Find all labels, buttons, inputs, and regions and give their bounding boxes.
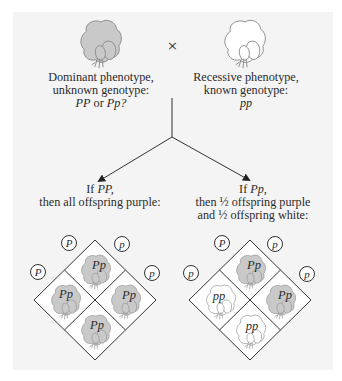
cell-genotype-left-right: Pp — [122, 288, 136, 303]
outcome-left-line-1: then all offspring purple: — [25, 196, 175, 209]
recessive-parent-label: Recessive phenotype, known genotype: pp — [175, 71, 317, 111]
dominant-parent-label: Dominant phenotype, unknown genotype: PP… — [30, 71, 172, 111]
gamete-circle-right-left: p — [183, 265, 199, 281]
cell-genotype-right-left: pp — [213, 289, 226, 304]
cell-genotype-left-top: Pp — [92, 258, 106, 273]
outcome-right-label: If Pp, then ½ offspring purple and ½ off… — [175, 183, 331, 223]
purple-flower-icon — [81, 20, 122, 68]
if-text: If — [239, 182, 250, 196]
genotype-pp-recessive: pp — [240, 96, 252, 110]
if-genotype: Pp, — [250, 182, 267, 196]
gamete-circle-left-left: P — [30, 264, 46, 280]
outcome-left-label: If PP, then all offspring purple: — [25, 183, 175, 209]
cross-symbol: × — [167, 38, 178, 53]
dominant-genotype: PP or Pp? — [30, 97, 172, 110]
recessive-genotype: pp — [175, 97, 317, 110]
cell-genotype-right-top: Pp — [247, 258, 261, 273]
arrow-left — [99, 137, 172, 181]
cell-genotype-right-right: Pp — [278, 288, 292, 303]
or-text: or — [91, 96, 107, 110]
gamete-circle-right-top-right: p — [267, 236, 283, 252]
cell-genotype-left-left: Pp — [59, 287, 73, 302]
white-flower-icon — [225, 20, 266, 68]
cell-genotype-left-bottom: Pp — [90, 318, 104, 333]
arrow-right — [172, 137, 249, 180]
genotype-pp-het: Pp? — [107, 96, 127, 110]
if-text: If — [86, 182, 97, 196]
cell-genotype-right-bottom: pp — [246, 319, 259, 334]
if-genotype: PP, — [97, 182, 113, 196]
genotype-pp-dominant: PP — [76, 96, 91, 110]
gamete-circle-right-right: p — [299, 266, 315, 282]
gamete-circle-left-right: p — [144, 265, 160, 281]
gamete-circle-left-top-left: P — [61, 235, 77, 251]
gamete-circle-left-top-right: p — [114, 236, 130, 252]
gamete-circle-right-top-left: P — [214, 235, 230, 251]
outcome-right-line-2: and ½ offspring white: — [175, 209, 331, 222]
